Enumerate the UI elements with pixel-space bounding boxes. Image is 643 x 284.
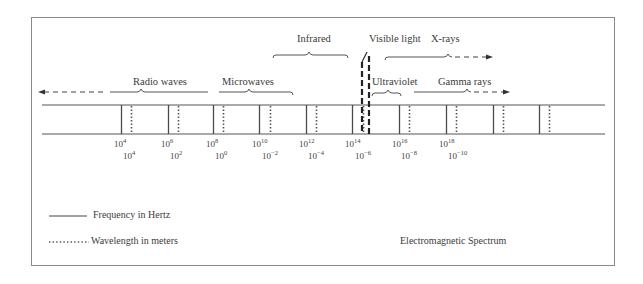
wavelength-tick-label: 10−4 bbox=[308, 149, 324, 161]
legend-wavelength-label: Wavelength in meters bbox=[91, 235, 178, 246]
gamma-brace bbox=[414, 89, 471, 92]
wavelength-tick-label: 10−6 bbox=[355, 149, 371, 161]
radio-left-arrowhead bbox=[38, 90, 45, 95]
microwaves-brace bbox=[219, 89, 293, 95]
infrared-brace bbox=[273, 52, 348, 58]
frequency-tick-label: 1018 bbox=[439, 137, 455, 149]
xrays-brace bbox=[385, 54, 452, 60]
ultraviolet-brace bbox=[372, 90, 401, 96]
electromagnetic-spectrum-diagram: Radio wavesMicrowavesInfraredVisible lig… bbox=[0, 0, 643, 284]
wavelength-gridlines bbox=[132, 106, 550, 134]
legend-frequency-label: Frequency in Hertz bbox=[93, 209, 170, 220]
frequency-tick-label: 108 bbox=[206, 137, 218, 149]
gamma-right-arrowhead bbox=[503, 90, 510, 95]
frequency-gridlines bbox=[122, 105, 540, 134]
frequency-tick-label: 104 bbox=[114, 137, 126, 149]
frequency-tick-label: 106 bbox=[161, 137, 173, 149]
wavelength-tick-label: 102 bbox=[170, 149, 182, 161]
wavelength-tick-label: 10−10 bbox=[448, 149, 467, 161]
diagram-caption: Electromagnetic Spectrum bbox=[400, 235, 506, 246]
wavelength-tick-label: 10−2 bbox=[262, 149, 278, 161]
radio-brace bbox=[110, 89, 208, 92]
region-label-visible-light: Visible light bbox=[369, 33, 421, 44]
wavelength-tick-label: 100 bbox=[215, 149, 227, 161]
wavelength-tick-label: 10−8 bbox=[401, 149, 417, 161]
region-label-ultraviolet: Ultraviolet bbox=[372, 76, 418, 87]
frequency-tick-label: 1012 bbox=[299, 137, 315, 149]
region-label-microwaves: Microwaves bbox=[222, 76, 274, 87]
region-label-radio-waves: Radio waves bbox=[133, 76, 187, 87]
frequency-tick-label: 1016 bbox=[392, 137, 408, 149]
region-label-gamma-rays: Gamma rays bbox=[438, 76, 491, 87]
frequency-tick-label: 1014 bbox=[345, 137, 361, 149]
region-label-x-rays: X-rays bbox=[431, 33, 460, 44]
region-label-infrared: Infrared bbox=[297, 33, 331, 44]
frequency-tick-label: 1010 bbox=[252, 137, 268, 149]
visible-light-pointer bbox=[362, 52, 367, 62]
xrays-right-arrowhead bbox=[486, 55, 493, 60]
wavelength-tick-label: 104 bbox=[123, 149, 135, 161]
